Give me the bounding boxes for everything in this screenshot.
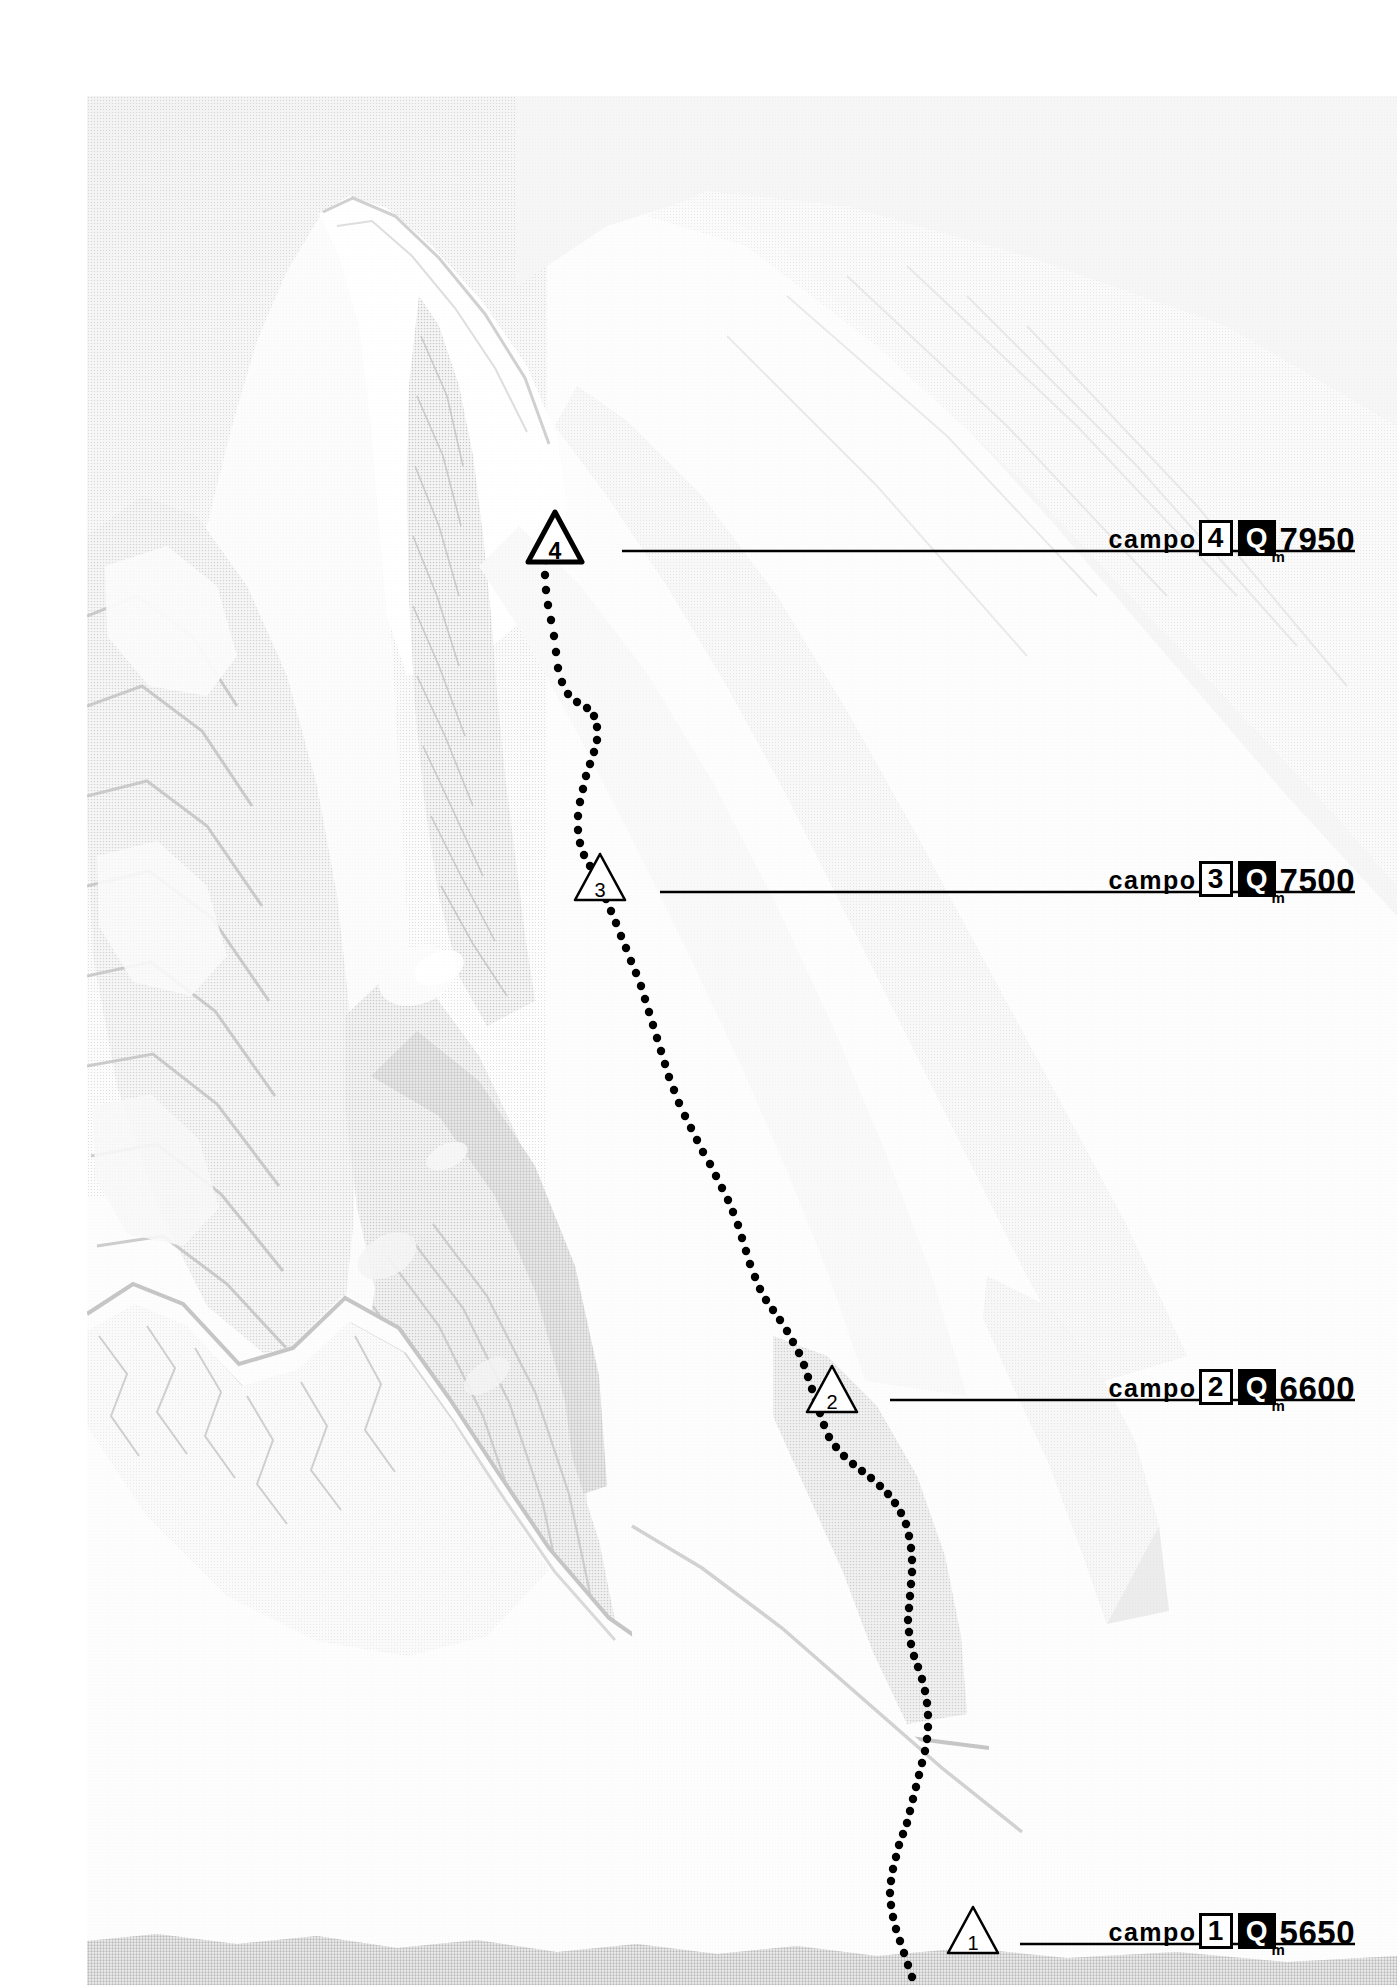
camp-label-tent-icon: Q xyxy=(1238,861,1276,897)
mountain-photograph xyxy=(87,96,1397,1985)
camp-label-unit: m xyxy=(1272,1942,1285,1957)
camp-label-tent-icon: Q xyxy=(1238,520,1276,556)
camp-label-unit: m xyxy=(1272,549,1285,564)
camp-label-unit: m xyxy=(1272,1398,1285,1413)
camp-label-unit: m xyxy=(1272,890,1285,905)
camp-label-4: campo4Q7950m xyxy=(1108,520,1355,556)
page-root: 4321 campo4Q7950mcampo3Q7500mcampo2Q6600… xyxy=(0,0,1397,1985)
camp-altitude-wrap: 5650m xyxy=(1276,1916,1355,1949)
camp-label-word: campo xyxy=(1108,1920,1196,1949)
camp-label-number-box: 1 xyxy=(1199,1913,1233,1949)
camp-label-word: campo xyxy=(1108,527,1196,556)
camp-altitude-wrap: 7500m xyxy=(1276,864,1355,897)
camp-label-altitude: 6600 xyxy=(1280,1370,1355,1409)
camp-label-tent-icon: Q xyxy=(1238,1369,1276,1405)
camp-label-1: campo1Q5650m xyxy=(1108,1913,1355,1949)
camp-label-altitude: 5650 xyxy=(1280,1914,1355,1953)
camp-label-number-box: 4 xyxy=(1199,520,1233,556)
camp-label-3: campo3Q7500m xyxy=(1108,861,1355,897)
camp-label-number-box: 2 xyxy=(1199,1369,1233,1405)
camp-altitude-wrap: 6600m xyxy=(1276,1372,1355,1405)
camp-label-altitude: 7950 xyxy=(1280,521,1355,560)
camp-label-altitude: 7500 xyxy=(1280,862,1355,901)
camp-label-number-box: 3 xyxy=(1199,861,1233,897)
camp-label-word: campo xyxy=(1108,1376,1196,1405)
camp-label-2: campo2Q6600m xyxy=(1108,1369,1355,1405)
camp-altitude-wrap: 7950m xyxy=(1276,523,1355,556)
camp-label-word: campo xyxy=(1108,868,1196,897)
camp-label-tent-icon: Q xyxy=(1238,1913,1276,1949)
